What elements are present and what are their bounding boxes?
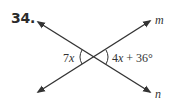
label-n: n: [155, 87, 161, 101]
left-angle-arc: [80, 50, 82, 64]
angle-right-label: 4x + 36°: [112, 51, 153, 65]
right-angle-arc: [106, 50, 108, 64]
intersecting-lines-diagram: m n 7x 4x + 36°: [0, 0, 176, 103]
angle-left-label: 7x: [63, 51, 75, 65]
label-m: m: [155, 13, 164, 27]
